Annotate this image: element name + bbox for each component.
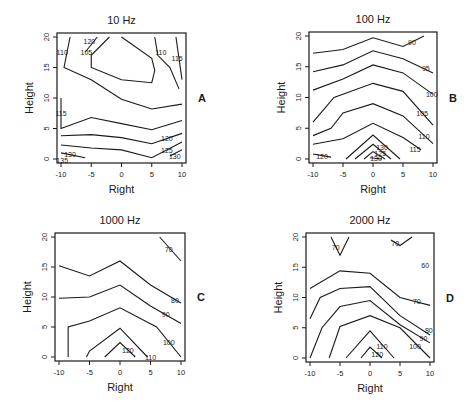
panel-d: 2000 Hz-10-5051005101520RightHeightD7070… <box>272 214 454 394</box>
contour-label: 100 <box>426 91 438 98</box>
contour-label: 110 <box>57 49 68 56</box>
x-tick-label: -5 <box>337 369 344 378</box>
panel-c: 1000 Hz-10-5051005101520RightHeightC7080… <box>21 214 205 393</box>
contour-label: 80 <box>425 327 433 334</box>
panel-letter: C <box>197 291 205 303</box>
panel-letter: A <box>198 92 206 104</box>
contour-label: 70 <box>332 244 340 251</box>
x-tick-label: 10 <box>177 368 185 377</box>
panel-title: 1000 Hz <box>100 214 141 226</box>
x-tick-label: -10 <box>308 170 319 179</box>
contour-label: 70 <box>391 240 399 247</box>
x-tick-label: -10 <box>56 170 67 179</box>
contour-label: 110 <box>145 354 156 361</box>
x-tick-label: 0 <box>118 368 122 377</box>
contour-line-110 <box>86 328 147 357</box>
plot-frame <box>57 33 186 163</box>
contour-label: 110 <box>376 343 387 350</box>
x-tick-label: -10 <box>305 369 316 378</box>
contour-label: 115 <box>172 55 183 62</box>
contour-label: 130 <box>370 155 382 162</box>
x-tick-label: -5 <box>86 368 93 377</box>
contour-line-95 <box>313 51 433 73</box>
x-tick-label: 5 <box>148 368 152 377</box>
contour-label: 70 <box>165 246 173 253</box>
x-axis-label: Right <box>107 381 133 393</box>
x-tick-label: -5 <box>88 170 95 179</box>
x-tick-label: 0 <box>119 170 123 179</box>
y-tick-label: 5 <box>294 126 303 130</box>
contour-line-110 <box>64 37 182 109</box>
contour-line-100 <box>313 65 433 95</box>
contour-label: 100 <box>409 343 421 350</box>
contour-label: 90 <box>420 335 428 342</box>
contour-figure: 10 Hz-10-5051005101520RightHeightA110105… <box>0 0 467 411</box>
contour-label: 70 <box>413 298 421 305</box>
contour-label: 80 <box>171 297 179 304</box>
contour-label: 100 <box>163 339 175 346</box>
y-tick-label: 20 <box>291 233 300 241</box>
contour-label: 110 <box>418 133 429 140</box>
contour-label: 135 <box>56 157 68 164</box>
y-axis-label: Height <box>275 82 287 114</box>
y-axis-label: Height <box>272 282 284 314</box>
contour-label: 115 <box>55 110 66 117</box>
y-tick-label: 10 <box>294 93 303 101</box>
y-axis-label: Height <box>21 281 33 313</box>
y-tick-label: 15 <box>42 63 51 71</box>
x-tick-label: -10 <box>54 368 65 377</box>
x-tick-label: 0 <box>368 369 372 378</box>
contour-line-105 <box>91 37 155 83</box>
y-tick-label: 10 <box>291 293 300 301</box>
panel-a: 10 Hz-10-5051005101520RightHeightA110105… <box>23 14 206 195</box>
contour-label: 130 <box>169 153 181 160</box>
y-tick-label: 10 <box>40 293 49 301</box>
panel-letter: B <box>449 92 457 104</box>
x-tick-label: 5 <box>398 369 402 378</box>
panel-title: 100 Hz <box>356 13 391 25</box>
y-tick-label: 20 <box>42 33 51 41</box>
contour-line-80 <box>310 287 430 335</box>
y-tick-label: 0 <box>42 157 51 161</box>
contour-label: 105 <box>416 110 428 117</box>
y-tick-label: 10 <box>42 94 51 102</box>
x-tick-label: -5 <box>340 170 347 179</box>
x-tick-label: 0 <box>371 170 375 179</box>
contour-label: 120 <box>371 351 383 358</box>
contour-label: 90 <box>162 311 170 318</box>
y-tick-label: 20 <box>40 233 49 241</box>
x-axis-label: Right <box>360 183 386 195</box>
x-tick-label: 5 <box>150 170 154 179</box>
x-tick-label: 5 <box>401 170 405 179</box>
contour-line-105 <box>313 83 433 125</box>
contour-label: 90 <box>408 39 416 46</box>
x-tick-label: 10 <box>178 170 186 179</box>
panel-b: 100 Hz-10-5051005101520RightHeightB90951… <box>275 13 457 195</box>
y-tick-label: 20 <box>294 32 303 40</box>
x-axis-label: Right <box>109 183 135 195</box>
panel-letter: D <box>446 292 454 304</box>
contour-line-80 <box>59 261 181 303</box>
contour-label: 60 <box>421 262 429 269</box>
y-tick-label: 5 <box>40 325 49 329</box>
x-tick-label: 10 <box>426 369 434 378</box>
contour-label: 120 <box>161 135 173 142</box>
y-tick-label: 15 <box>294 63 303 71</box>
x-tick-label: 10 <box>429 170 437 179</box>
contour-label: 95 <box>422 65 430 72</box>
y-tick-label: 0 <box>40 355 49 359</box>
y-tick-label: 5 <box>42 126 51 130</box>
y-tick-label: 15 <box>291 263 300 271</box>
y-tick-label: 15 <box>40 263 49 271</box>
contour-label: 120 <box>122 347 134 354</box>
contour-line-115 <box>313 123 421 149</box>
contour-label: 120 <box>316 153 328 160</box>
contour-label: 120 <box>84 38 96 45</box>
panel-title: 10 Hz <box>107 14 136 26</box>
y-tick-label: 0 <box>294 157 303 161</box>
x-axis-label: Right <box>357 382 383 394</box>
contour-line-115 <box>61 98 182 130</box>
contour-label: 115 <box>409 146 420 153</box>
contour-label: 110 <box>155 49 166 56</box>
y-tick-label: 0 <box>291 356 300 360</box>
